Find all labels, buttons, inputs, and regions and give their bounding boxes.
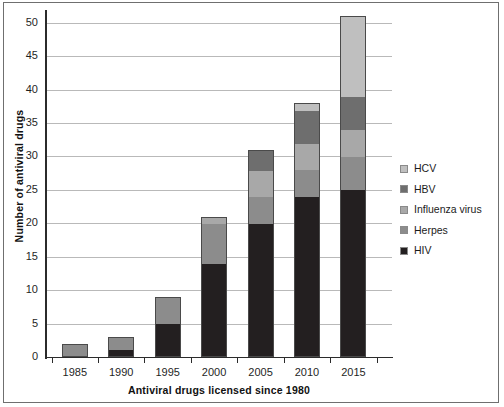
bar-segment-hiv [156, 324, 180, 356]
legend-swatch-icon [400, 206, 408, 214]
x-tick-mark [237, 357, 238, 363]
bar-segment-hiv [249, 224, 273, 356]
bar-segment-hbv [249, 151, 273, 171]
bar-2000 [201, 217, 227, 357]
bar-segment-influenza-virus [341, 130, 365, 157]
bar-segment-hiv [341, 190, 365, 356]
y-tick-label: 0 [4, 351, 38, 362]
legend-item-hcv[interactable]: HCV [400, 160, 500, 177]
bar-segment-hiv [109, 350, 133, 356]
legend-swatch-icon [400, 247, 408, 255]
x-tick-mark [377, 357, 378, 363]
y-axis-line [45, 10, 47, 359]
bar-1985 [62, 344, 88, 357]
bar-segment-hcv [295, 104, 319, 111]
bar-segment-herpes [63, 345, 87, 356]
x-tick-mark [52, 357, 53, 363]
bar-2005 [248, 150, 274, 357]
bar-segment-herpes [156, 298, 180, 324]
bar-segment-influenza-virus [295, 144, 319, 171]
legend-label: HIV [414, 245, 432, 256]
bar-segment-hiv [202, 264, 226, 356]
legend-label: HCV [414, 163, 436, 174]
bar-segment-influenza-virus [249, 171, 273, 197]
y-tick-label: 50 [4, 17, 38, 28]
y-tick-label: 5 [4, 318, 38, 329]
bar-segment-hbv [295, 111, 319, 144]
legend-item-herpes[interactable]: Herpes [400, 222, 500, 239]
x-tick-mark [191, 357, 192, 363]
bar-segment-herpes [202, 224, 226, 264]
bar-2015 [340, 16, 366, 357]
bar-segment-herpes [341, 157, 365, 190]
bar-segment-herpes [109, 338, 133, 350]
x-tick-label: 2015 [323, 366, 383, 378]
bar-segment-hbv [341, 97, 365, 130]
legend-swatch-icon [400, 165, 408, 173]
bar-1995 [155, 297, 181, 357]
bar-1990 [108, 337, 134, 357]
legend-item-hiv[interactable]: HIV [400, 242, 500, 259]
legend-item-hbv[interactable]: HBV [400, 181, 500, 198]
y-tick-label: 45 [4, 50, 38, 61]
bar-segment-influenza-virus [202, 218, 226, 225]
figure-container: 05101520253035404550 1985199019952000200… [0, 0, 504, 407]
legend-swatch-icon [400, 226, 408, 234]
bar-segment-hcv [341, 17, 365, 97]
legend-item-influenza-virus[interactable]: Influenza virus [400, 201, 500, 218]
bar-segment-herpes [249, 197, 273, 223]
x-tick-mark [330, 357, 331, 363]
legend-label: Herpes [414, 225, 448, 236]
legend-swatch-icon [400, 185, 408, 193]
bar-2010 [294, 103, 320, 357]
chart-legend: HCVHBVInfluenza virusHerpesHIV [400, 160, 500, 263]
x-tick-mark [98, 357, 99, 363]
legend-label: HBV [414, 184, 436, 195]
x-tick-mark [284, 357, 285, 363]
x-axis-title: Antiviral drugs licensed since 1980 [46, 384, 392, 396]
x-tick-mark [144, 357, 145, 363]
bar-segment-herpes [295, 170, 319, 197]
y-axis-title: Number of antiviral drugs [13, 61, 25, 291]
legend-label: Influenza virus [414, 204, 482, 215]
bar-segment-hiv [295, 197, 319, 356]
